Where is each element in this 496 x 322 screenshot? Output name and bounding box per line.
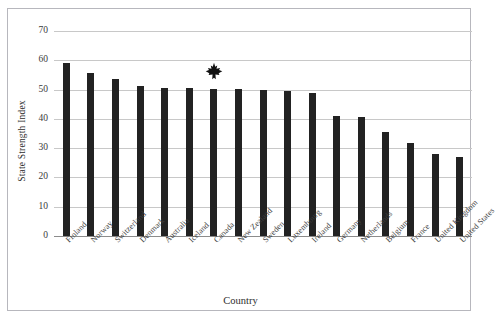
- bar: [186, 88, 193, 236]
- plot-area: [54, 31, 472, 236]
- bar: [333, 116, 340, 236]
- bar: [63, 63, 70, 236]
- figure-frame: 010203040506070 State Strength Index Fin…: [7, 8, 471, 311]
- y-tick-label: 10: [14, 202, 48, 212]
- bar: [161, 88, 168, 236]
- maple-leaf-icon: [205, 62, 223, 80]
- y-tick-label: 0: [14, 231, 48, 241]
- bar: [235, 89, 242, 236]
- bar: [210, 89, 217, 236]
- bar: [284, 91, 291, 236]
- bar: [432, 154, 439, 236]
- y-tick-label: 70: [14, 26, 48, 36]
- x-axis-title: Country: [0, 295, 481, 306]
- y-tick-label: 60: [14, 55, 48, 65]
- bar-series: [54, 31, 472, 236]
- y-axis-title: State Strength Index: [17, 81, 27, 201]
- y-axis-tick-labels: 010203040506070: [8, 31, 48, 236]
- bar: [112, 79, 119, 236]
- bar: [87, 73, 94, 236]
